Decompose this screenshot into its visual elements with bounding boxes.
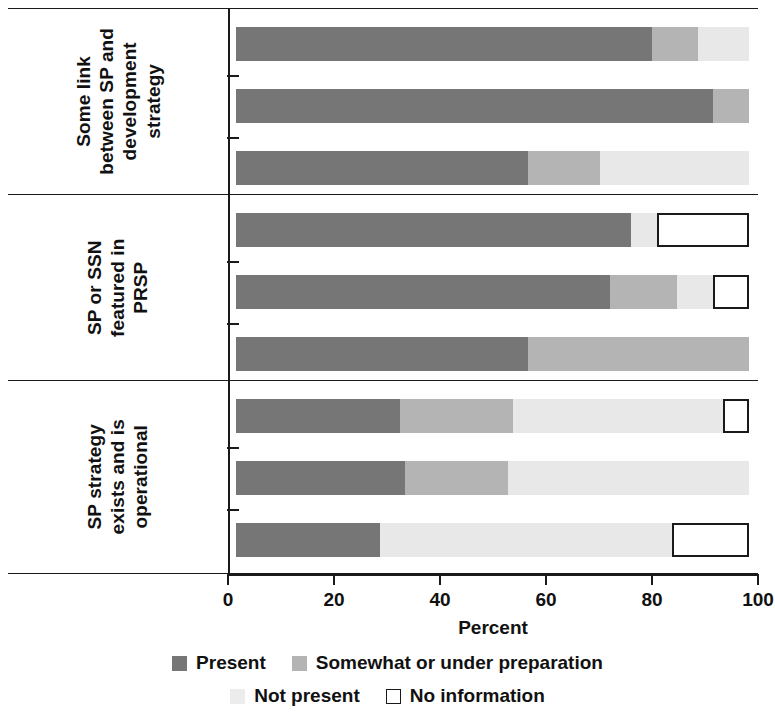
chart-bar-row: All 22: [228, 13, 758, 75]
legend-swatch-present-icon: [172, 656, 187, 671]
x-axis-tick: [333, 574, 335, 585]
bar-track: [236, 89, 749, 123]
bar-track: [236, 399, 749, 433]
panel-group-label-line: development: [118, 28, 141, 175]
bar-segment-notpresent: [508, 461, 749, 495]
panel-group-label-line: Some link: [72, 28, 95, 175]
bar-segment-somewhat: [528, 151, 600, 185]
x-axis-tick-label: 80: [641, 589, 662, 611]
panel-group-label-line: PRSP: [130, 238, 153, 336]
legend-label-notpresent: Not present: [254, 685, 360, 707]
bar-segment-notpresent: [631, 213, 657, 247]
bar-segment-present: [236, 399, 400, 433]
x-axis-tick-label: 20: [323, 589, 344, 611]
panel-group-label: Some linkbetween SP anddevelopmentstrate…: [8, 9, 228, 194]
legend-swatch-notpresent-icon: [230, 689, 245, 704]
x-axis-tick-label: 0: [223, 589, 234, 611]
bar-segment-present: [236, 275, 610, 309]
bar-track: [236, 461, 749, 495]
panel-group-label: SP or SSNfeatured inPRSP: [8, 195, 228, 380]
legend-item-somewhat: Somewhat or under preparation: [292, 652, 603, 674]
x-axis-line: [228, 574, 758, 576]
stacked-bar-chart: Some linkbetween SP anddevelopmentstrate…: [0, 0, 775, 723]
x-axis-tick: [439, 574, 441, 585]
bar-track: [236, 523, 749, 557]
legend-label-present: Present: [196, 652, 266, 674]
legend-row-top: Present Somewhat or under preparation: [0, 652, 775, 674]
bar-segment-present: [236, 151, 528, 185]
chart-bar-row: 15 LICs: [228, 75, 758, 137]
chart-bar-row: 15 LICs: [228, 261, 758, 323]
bar-segment-somewhat: [528, 337, 749, 371]
legend-row-bottom: Not present No information: [0, 685, 775, 707]
panel-group-label-line: SP strategy: [83, 419, 106, 534]
chart-panel: SP or SSNfeatured inPRSPAll 2215 LICs7 M…: [8, 194, 758, 380]
bar-segment-noinfo: [723, 399, 749, 433]
chart-legend: Present Somewhat or under preparation No…: [0, 652, 775, 718]
bar-segment-somewhat: [713, 89, 749, 123]
legend-item-present: Present: [172, 652, 266, 674]
x-axis-tick: [651, 574, 653, 585]
x-axis-tick-label: 100: [742, 589, 774, 611]
chart-bar-row: All 22: [228, 199, 758, 261]
legend-swatch-noinfo-icon: [386, 689, 401, 704]
chart-bar-row: 7 MICs: [228, 323, 758, 385]
legend-label-somewhat: Somewhat or under preparation: [316, 652, 603, 674]
bar-track: [236, 151, 749, 185]
bar-segment-notpresent: [698, 27, 749, 61]
bar-segment-present: [236, 27, 652, 61]
panel-group-label-line: exists and is: [106, 419, 129, 534]
x-axis-tick-label: 40: [429, 589, 450, 611]
x-axis-tick: [545, 574, 547, 585]
bar-segment-somewhat: [610, 275, 677, 309]
bar-segment-present: [236, 337, 528, 371]
panel-group-label-line: between SP and: [95, 28, 118, 175]
panel-group-label-line: operational: [130, 419, 153, 534]
bar-segment-noinfo: [672, 523, 749, 557]
bar-segment-somewhat: [405, 461, 508, 495]
bar-segment-present: [236, 461, 405, 495]
bar-track: [236, 337, 749, 371]
panel-group-label-line: strategy: [141, 28, 164, 175]
chart-panel: SP strategyexists and isoperationalAll 2…: [8, 380, 758, 574]
bar-track: [236, 275, 749, 309]
panel-group-label-line: featured in: [106, 238, 129, 336]
bar-segment-noinfo: [657, 213, 749, 247]
x-axis-title: Percent: [228, 617, 758, 639]
x-axis-tick: [227, 574, 229, 585]
legend-label-noinfo: No information: [410, 685, 545, 707]
chart-bar-row: All 22: [228, 385, 758, 447]
panel-group-label-line: SP or SSN: [83, 238, 106, 336]
panel-group-label: SP strategyexists and isoperational: [8, 381, 228, 573]
bar-segment-present: [236, 213, 631, 247]
x-axis-tick: [757, 574, 759, 585]
bar-segment-noinfo: [713, 275, 749, 309]
chart-bar-row: 7 MICs: [228, 509, 758, 571]
chart-bar-row: 15 LICs: [228, 447, 758, 509]
bar-segment-notpresent: [380, 523, 672, 557]
bar-track: [236, 213, 749, 247]
legend-item-notpresent: Not present: [230, 685, 360, 707]
chart-bar-row: 7 MICs: [228, 137, 758, 199]
bar-segment-present: [236, 89, 713, 123]
legend-item-noinfo: No information: [386, 685, 545, 707]
bar-segment-notpresent: [600, 151, 749, 185]
legend-swatch-somewhat-icon: [292, 656, 307, 671]
bar-segment-somewhat: [652, 27, 698, 61]
panel-rows: All 2215 LICs7 MICs: [228, 9, 758, 194]
bar-segment-notpresent: [677, 275, 713, 309]
bar-segment-present: [236, 523, 380, 557]
x-axis-tick-label: 60: [535, 589, 556, 611]
chart-panel: Some linkbetween SP anddevelopmentstrate…: [8, 8, 758, 194]
panel-rows: All 2215 LICs7 MICs: [228, 381, 758, 573]
x-axis: 020406080100: [228, 574, 758, 575]
bar-segment-notpresent: [513, 399, 723, 433]
bar-segment-somewhat: [400, 399, 513, 433]
panel-rows: All 2215 LICs7 MICs: [228, 195, 758, 380]
bar-track: [236, 27, 749, 61]
